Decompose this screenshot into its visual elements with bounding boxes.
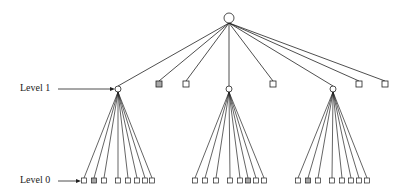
level-0-leaf-node	[316, 178, 321, 183]
level-0-leaf-node	[92, 178, 97, 183]
level-0-leaf-node	[116, 178, 121, 183]
level-0-leaf-node	[357, 178, 362, 183]
level-0-leaf-node	[102, 178, 107, 183]
level-0-leaf-node	[228, 178, 233, 183]
edge	[333, 92, 342, 178]
edge	[118, 23, 229, 86]
edge	[205, 92, 229, 178]
edge	[229, 23, 385, 81]
edge	[229, 92, 230, 178]
level-1-leaf-node	[270, 81, 276, 87]
edge	[118, 92, 145, 178]
edge	[333, 92, 359, 178]
edge	[159, 23, 229, 81]
level-0-leaf-node	[82, 178, 87, 183]
level-1-leaf-node	[356, 81, 362, 87]
level-0-leaf-node	[193, 178, 198, 183]
level-0-leaf-node	[135, 178, 140, 183]
tree-diagram	[0, 0, 409, 196]
arrow-head-icon	[76, 179, 81, 183]
edge	[84, 92, 118, 178]
edge	[298, 92, 333, 178]
level-0-leaf-node	[214, 178, 219, 183]
level-1-leaf-node	[156, 81, 162, 87]
edge	[118, 92, 137, 178]
level-0-leaf-node	[365, 178, 370, 183]
edge	[332, 92, 333, 178]
level-0-leaf-node	[330, 178, 335, 183]
level-0-leaf-node	[254, 178, 259, 183]
level-0-leaf-node	[246, 178, 251, 183]
level-0-leaf-node	[126, 178, 131, 183]
level-1-label: Level 1	[20, 82, 50, 93]
level-0-leaf-node	[143, 178, 148, 183]
level-0-leaf-node	[203, 178, 208, 183]
level-0-leaf-node	[340, 178, 345, 183]
level-1-leaf-node	[382, 81, 388, 87]
arrow-head-icon	[110, 87, 115, 91]
level-0-label: Level 0	[20, 174, 50, 185]
level-1-index-node	[330, 86, 336, 92]
level-0-leaf-node	[349, 178, 354, 183]
edge	[229, 92, 256, 178]
level-0-leaf-node	[150, 178, 155, 183]
edge	[195, 92, 229, 178]
edge	[216, 92, 229, 178]
edge	[229, 23, 333, 86]
edge	[333, 92, 351, 178]
level-0-leaf-node	[296, 178, 301, 183]
root-node	[224, 13, 234, 23]
edge	[229, 23, 273, 81]
edge	[333, 92, 367, 178]
edge	[186, 23, 229, 81]
edge	[229, 23, 359, 81]
level-0-leaf-node	[262, 178, 267, 183]
level-1-index-node	[226, 86, 232, 92]
level-0-leaf-node	[238, 178, 243, 183]
level-0-leaf-node	[306, 178, 311, 183]
level-1-leaf-node	[183, 81, 189, 87]
level-1-index-node	[115, 86, 121, 92]
